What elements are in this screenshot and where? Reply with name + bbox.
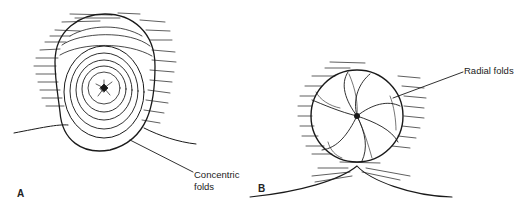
callout-b-line1: Radial folds <box>464 65 514 77</box>
panel-b-hatching <box>298 62 426 182</box>
leader-line-a <box>130 140 193 172</box>
illustration-canvas <box>0 0 523 208</box>
panel-a-drawing <box>14 13 196 172</box>
callout-radial-folds: Radial folds <box>464 65 514 77</box>
panel-label-a: A <box>17 188 24 199</box>
panel-label-b: B <box>258 183 265 194</box>
callout-a-line1: Concentric <box>194 169 239 181</box>
panel-b-drawing <box>250 62 463 197</box>
leader-line-b <box>393 72 463 98</box>
callout-a-line2: folds <box>194 181 239 193</box>
callout-concentric-folds: Concentric folds <box>194 169 239 193</box>
